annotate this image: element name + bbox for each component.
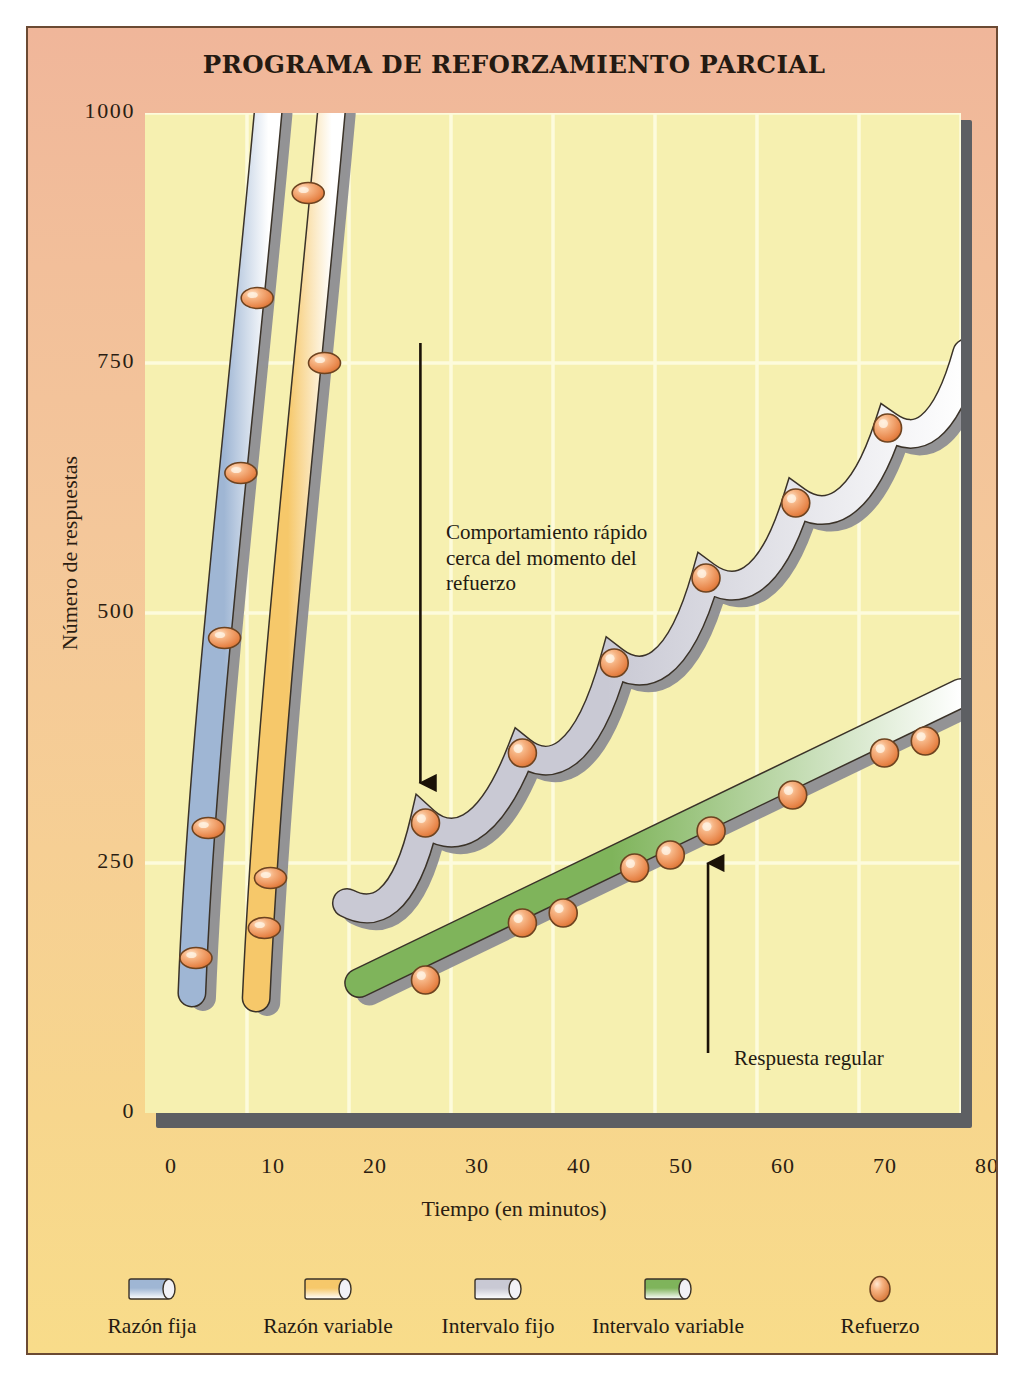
legend-label: Intervalo fijo (408, 1314, 588, 1339)
reinforcement-highlight (626, 859, 635, 868)
reinforcement-highlight (697, 569, 706, 578)
reinforcement-sphere[interactable] (508, 739, 536, 767)
x-axis-ticks: 01020304050607080 (28, 1153, 998, 1187)
x-tick-label-10: 10 (243, 1153, 303, 1179)
reinforcement-marker[interactable] (248, 918, 280, 939)
reinforcement-sphere[interactable] (874, 414, 902, 442)
y-tick-label-750: 750 (45, 348, 135, 374)
reinforcement-highlight (315, 357, 325, 363)
reinforcement-highlight (417, 814, 426, 823)
legend-item-intervalo-variable[interactable]: Intervalo variable (578, 1272, 758, 1339)
x-tick-label-0: 0 (141, 1153, 201, 1179)
sphere-swatch-icon (790, 1272, 970, 1310)
reinforcement-marker[interactable] (309, 353, 341, 374)
reinforcement-highlight (255, 922, 265, 928)
reinforcement-sphere[interactable] (692, 564, 720, 592)
legend-item-intervalo-fijo[interactable]: Intervalo fijo (408, 1272, 588, 1339)
reinforcement-highlight (876, 744, 885, 753)
y-tick-label-500: 500 (45, 598, 135, 624)
reinforcement-sphere[interactable] (621, 854, 649, 882)
reinforcement-highlight (298, 187, 308, 193)
reinforcement-marker[interactable] (508, 909, 536, 937)
reinforcement-marker[interactable] (192, 818, 224, 839)
reinforcement-sphere[interactable] (254, 868, 286, 889)
chart-legend: Razón fijaRazón variableIntervalo fijoIn… (28, 1272, 998, 1355)
annotation-steady-response: Respuesta regular (734, 1046, 994, 1072)
x-tick-label-50: 50 (651, 1153, 711, 1179)
reinforcement-highlight (198, 822, 208, 828)
reinforcement-highlight (784, 786, 793, 795)
figure-panel: PROGRAMA DE REFORZAMIENTO PARCIAL Número… (26, 26, 998, 1355)
reinforcement-marker[interactable] (292, 183, 324, 204)
reinforcement-marker[interactable] (549, 899, 577, 927)
reinforcement-sphere[interactable] (225, 463, 257, 484)
cylinder-swatch-icon (578, 1272, 758, 1310)
reinforcement-sphere[interactable] (412, 809, 440, 837)
legend-item-refuerzo[interactable]: Refuerzo (790, 1272, 970, 1339)
plot-area (145, 113, 961, 1113)
reinforcement-sphere[interactable] (192, 818, 224, 839)
reinforcement-marker[interactable] (412, 966, 440, 994)
reinforcement-sphere[interactable] (292, 183, 324, 204)
reinforcement-marker[interactable] (911, 727, 939, 755)
reinforcement-marker[interactable] (779, 781, 807, 809)
reinforcement-highlight (605, 654, 614, 663)
reinforcement-sphere[interactable] (600, 649, 628, 677)
reinforcement-marker[interactable] (209, 628, 241, 649)
x-tick-label-20: 20 (345, 1153, 405, 1179)
x-tick-label-60: 60 (753, 1153, 813, 1179)
reinforcement-marker[interactable] (782, 489, 810, 517)
reinforcement-highlight (417, 971, 426, 980)
reinforcement-marker[interactable] (254, 868, 286, 889)
reinforcement-sphere[interactable] (508, 909, 536, 937)
x-axis-label: Tiempo (en minutos) (28, 1196, 998, 1222)
reinforcement-marker[interactable] (600, 649, 628, 677)
y-tick-label-250: 250 (45, 848, 135, 874)
reinforcement-marker[interactable] (225, 463, 257, 484)
legend-label: Intervalo variable (578, 1314, 758, 1339)
reinforcement-marker[interactable] (697, 817, 725, 845)
legend-item-raz-n-fija[interactable]: Razón fija (62, 1272, 242, 1339)
reinforcement-highlight (554, 904, 563, 913)
reinforcement-sphere[interactable] (248, 918, 280, 939)
reinforcement-sphere[interactable] (309, 353, 341, 374)
legend-label: Razón variable (238, 1314, 418, 1339)
reinforcement-marker[interactable] (656, 841, 684, 869)
reinforcement-sphere[interactable] (782, 489, 810, 517)
reinforcement-highlight (917, 732, 926, 741)
reinforcement-highlight (702, 822, 711, 831)
y-tick-label-0: 0 (45, 1098, 135, 1124)
reinforcement-marker[interactable] (871, 739, 899, 767)
reinforcement-sphere[interactable] (241, 288, 273, 309)
cylinder-swatch-icon (62, 1272, 242, 1310)
reinforcement-sphere[interactable] (549, 899, 577, 927)
legend-item-raz-n-variable[interactable]: Razón variable (238, 1272, 418, 1339)
reinforcement-highlight (514, 914, 523, 923)
reinforcement-sphere[interactable] (656, 841, 684, 869)
reinforcement-sphere[interactable] (697, 817, 725, 845)
reinforcement-marker[interactable] (412, 809, 440, 837)
reinforcement-marker[interactable] (692, 564, 720, 592)
legend-label: Refuerzo (790, 1314, 970, 1339)
reinforcement-sphere[interactable] (779, 781, 807, 809)
y-tick-label-1000: 1000 (45, 98, 135, 124)
reinforcement-highlight (186, 952, 196, 958)
cylinder-swatch-icon (238, 1272, 418, 1310)
reinforcement-sphere[interactable] (412, 966, 440, 994)
chart-canvas (145, 113, 961, 1113)
reinforcement-sphere[interactable] (180, 948, 212, 969)
reinforcement-marker[interactable] (874, 414, 902, 442)
reinforcement-marker[interactable] (621, 854, 649, 882)
reinforcement-highlight (215, 632, 225, 638)
reinforcement-highlight (261, 872, 271, 878)
reinforcement-sphere[interactable] (911, 727, 939, 755)
x-tick-label-70: 70 (855, 1153, 915, 1179)
reinforcement-sphere[interactable] (871, 739, 899, 767)
reinforcement-highlight (247, 292, 257, 298)
legend-label: Razón fija (62, 1314, 242, 1339)
x-tick-label-40: 40 (549, 1153, 609, 1179)
reinforcement-marker[interactable] (241, 288, 273, 309)
reinforcement-marker[interactable] (508, 739, 536, 767)
reinforcement-marker[interactable] (180, 948, 212, 969)
reinforcement-sphere[interactable] (209, 628, 241, 649)
